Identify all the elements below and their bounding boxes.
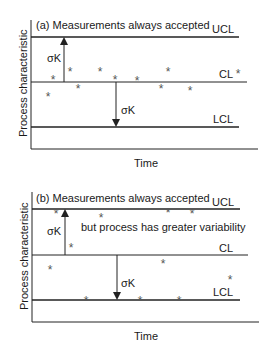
- data-point: *: [73, 83, 83, 95]
- data-point: *: [156, 83, 166, 95]
- data-point: *: [225, 274, 235, 286]
- sigma-down-a: σK: [121, 104, 135, 116]
- data-point: *: [163, 207, 173, 219]
- data-point: *: [135, 295, 145, 307]
- panel-b-title: (b) Measurements always accepted: [36, 192, 210, 204]
- sigma-down-b: σK: [121, 277, 135, 289]
- data-point: *: [51, 208, 61, 220]
- sigma-up-a: σK: [47, 52, 61, 64]
- ucl-label-a: UCL: [212, 23, 234, 35]
- x-axis-label-a: Time: [134, 157, 158, 169]
- cl-label-b: CL: [219, 242, 233, 254]
- data-point: *: [132, 75, 142, 87]
- sigma-up-b: σK: [47, 225, 61, 237]
- panel-a-title: (a) Measurements always accepted: [36, 19, 210, 31]
- y-axis-label-b: Process characteristic: [18, 202, 30, 310]
- data-point: *: [174, 295, 184, 307]
- x-axis-label-b: Time: [134, 330, 158, 342]
- data-point: *: [187, 208, 197, 220]
- data-point: *: [81, 295, 91, 307]
- data-point: *: [43, 91, 53, 103]
- lcl-label-b: LCL: [213, 286, 233, 298]
- cl-label-a: CL: [219, 68, 233, 80]
- y-axis-label-a: Process characteristic: [17, 29, 29, 137]
- data-point: *: [110, 74, 120, 86]
- data-point: *: [185, 85, 195, 97]
- data-point: *: [158, 258, 168, 270]
- ucl-label-b: UCL: [212, 196, 234, 208]
- data-point: *: [95, 66, 105, 78]
- data-point: *: [45, 264, 55, 276]
- data-point: *: [66, 242, 76, 254]
- data-point: *: [48, 74, 58, 86]
- data-point: *: [163, 66, 173, 78]
- cl-marker-a: *: [233, 68, 243, 80]
- data-point: *: [65, 66, 75, 78]
- lcl-label-a: LCL: [213, 113, 233, 125]
- data-point: *: [96, 212, 106, 224]
